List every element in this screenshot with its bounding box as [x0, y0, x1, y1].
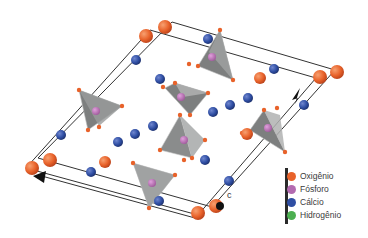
phosphate-tetrahedra [77, 28, 287, 210]
dark-atom [216, 202, 224, 210]
legend-label: Cálcio [300, 198, 324, 207]
axis-arrow-icon [292, 88, 300, 104]
hydrogen-swatch-icon [287, 211, 296, 220]
legend-item-hydrogen: Hidrogênio [288, 209, 341, 222]
c-axis-label: c [227, 190, 232, 200]
legend-item-phosphorus: Fósforo [288, 183, 329, 196]
legend-label: Oxigênio [300, 172, 334, 181]
phosphorus-swatch-icon [287, 185, 296, 194]
legend-item-calcium: Cálcio [288, 196, 324, 209]
legend-label: Hidrogênio [300, 211, 341, 220]
legend-label: Fósforo [300, 185, 329, 194]
oxygen-swatch-icon [287, 172, 296, 181]
calcium-swatch-icon [287, 198, 296, 207]
legend: Oxigênio Fósforo Cálcio Hidrogênio [285, 168, 365, 224]
tetrahedron [161, 81, 210, 117]
legend-item-oxygen: Oxigênio [288, 170, 334, 183]
tetrahedron [158, 113, 207, 160]
